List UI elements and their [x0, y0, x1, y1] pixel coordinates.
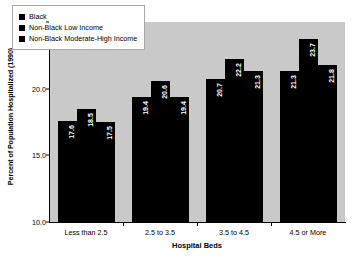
bar-value-label: 19.4: [133, 101, 149, 115]
y-tick-label: 15.0: [20, 151, 46, 160]
y-tick-mark: [46, 22, 49, 23]
bar: 21.3: [280, 71, 299, 222]
bar: 19.4: [170, 97, 189, 222]
y-axis-title: Percent of Population Hospitalized (1990…: [7, 47, 16, 184]
x-tick-label: Less than 2.5: [64, 228, 107, 237]
legend-label: Black: [29, 13, 47, 20]
legend-label: Non-Black Moderate-High Income: [29, 35, 137, 42]
bar: 21.8: [318, 65, 337, 222]
bar: 22.2: [225, 59, 244, 222]
bar-value-label: 19.4: [171, 101, 187, 115]
legend-item: Non-Black Moderate-High Income: [19, 33, 137, 44]
legend-item: Non-Black Low Income: [19, 22, 137, 33]
chart-figure: Percent of Population Hospitalized (1990…: [0, 0, 357, 262]
x-tick-mark: [123, 223, 124, 226]
bar-value-label: 23.7: [300, 44, 316, 58]
x-tick-label: 4.5 or More: [290, 228, 327, 237]
bar-value-label: 18.5: [78, 113, 94, 127]
bar-value-label: 17.6: [59, 125, 75, 139]
y-axis-line: [49, 22, 50, 223]
bar: 21.3: [244, 71, 263, 222]
bar-group: 20.722.221.3: [206, 22, 263, 222]
chart-legend: BlackNon-Black Low IncomeNon-Black Moder…: [12, 5, 145, 50]
y-tick-label: 10.0: [20, 218, 46, 227]
legend-swatch-icon: [19, 14, 25, 20]
x-tick-label: 3.5 to 4.5: [219, 228, 249, 237]
y-tick-label: 20.0: [20, 84, 46, 93]
bar-group: 21.323.721.8: [280, 22, 337, 222]
legend-item: Black: [19, 11, 137, 22]
x-tick-label: 2.5 to 3.5: [145, 228, 175, 237]
bar-group: 19.420.619.4: [132, 22, 189, 222]
bar: 17.5: [96, 122, 115, 222]
bar-value-label: 20.6: [152, 85, 168, 99]
bar-value-label: 21.8: [319, 69, 335, 83]
legend-swatch-icon: [19, 36, 25, 42]
bar-group: 17.618.517.5: [58, 22, 115, 222]
x-tick-mark: [271, 223, 272, 226]
bar-value-label: 22.2: [226, 64, 242, 78]
bar-value-label: 21.3: [281, 76, 297, 90]
bar: 23.7: [299, 39, 318, 222]
legend-label: Non-Black Low Income: [29, 24, 103, 31]
bar: 19.4: [132, 97, 151, 222]
y-tick-mark: [46, 155, 49, 156]
bar: 17.6: [58, 121, 77, 222]
bar-value-label: 20.7: [207, 84, 223, 98]
bar: 18.5: [77, 109, 96, 222]
bar-value-label: 21.3: [245, 76, 261, 90]
legend-swatch-icon: [19, 25, 25, 31]
y-tick-mark: [46, 88, 49, 89]
y-tick-mark: [46, 222, 49, 223]
bar: 20.6: [151, 81, 170, 222]
bar-value-label: 17.5: [97, 126, 113, 140]
x-axis-title: Hospital Beds: [49, 241, 345, 250]
plot-area: 17.618.517.519.420.619.420.722.221.321.3…: [49, 22, 345, 222]
x-tick-mark: [197, 223, 198, 226]
bar: 20.7: [206, 79, 225, 222]
